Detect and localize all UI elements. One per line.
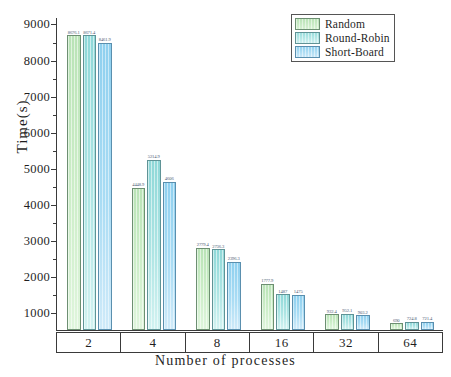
x-axis-title: Number of processes	[0, 353, 451, 369]
bar[interactable]: 8461.9	[98, 43, 112, 330]
legend-color-swatch	[295, 46, 320, 58]
y-axis-minor-tick-mark	[53, 259, 57, 260]
legend: RandomRound-RobinShort-Board	[291, 14, 395, 62]
legend-color-swatch	[295, 32, 320, 44]
bar[interactable]: 721.4	[421, 322, 435, 330]
bar-value-label: 2396.3	[228, 257, 240, 262]
bar-value-label: 4448.9	[132, 183, 144, 188]
bar-group: 2779.42736.32396.3	[186, 18, 251, 330]
bar[interactable]: 4448.9	[132, 188, 146, 330]
y-axis-tick-mark	[51, 133, 57, 134]
y-axis-tick-label: 8000	[6, 53, 50, 68]
legend-label: Round-Robin	[325, 32, 390, 44]
y-axis-minor-tick-mark	[53, 115, 57, 116]
bar[interactable]: 2736.3	[212, 249, 226, 330]
x-axis-category-4: 4	[121, 333, 185, 352]
bar[interactable]: 903.2	[356, 315, 370, 330]
bar[interactable]: 8676.1	[67, 35, 81, 330]
bar[interactable]: 1487	[276, 294, 290, 330]
bar-group: 4448.95214.94606	[122, 18, 187, 330]
bar-value-label: 5214.9	[148, 155, 160, 160]
bar-chart-figure: Time(s) 10002000300040005000600070008000…	[0, 0, 451, 377]
y-axis-tick-label: 3000	[6, 233, 50, 248]
bar[interactable]: 1475	[292, 295, 306, 330]
bar[interactable]: 1777.9	[261, 284, 275, 330]
y-axis-minor-tick-mark	[53, 79, 57, 80]
y-axis-tick-label: 1000	[6, 305, 50, 320]
bar[interactable]: 932.4	[325, 314, 339, 330]
bar-value-label: 721.4	[422, 317, 432, 322]
bar[interactable]: 4606	[163, 182, 177, 330]
y-axis-minor-tick-mark	[53, 223, 57, 224]
y-axis-tick-mark	[51, 97, 57, 98]
y-axis-minor-tick-mark	[53, 151, 57, 152]
bar[interactable]: 8671.4	[83, 35, 97, 330]
y-axis-tick-label: 4000	[6, 197, 50, 212]
bar-group: 932.4952.1903.2	[315, 18, 380, 330]
x-axis-category-2: 2	[57, 333, 121, 352]
legend-item[interactable]: Short-Board	[295, 45, 390, 59]
y-axis-tick-mark	[51, 277, 57, 278]
bar-value-label: 8676.1	[68, 31, 80, 36]
bar-value-label: 724.8	[407, 317, 417, 322]
bar-value-label: 4606	[165, 177, 174, 182]
bar-value-label: 2736.3	[212, 245, 224, 250]
bar[interactable]: 690	[390, 323, 404, 330]
legend-color-swatch	[295, 18, 320, 30]
y-axis-tick-mark	[51, 61, 57, 62]
bar-group: 690724.8721.4	[380, 18, 445, 330]
bar[interactable]: 2396.3	[227, 262, 241, 330]
y-axis-tick-label: 6000	[6, 125, 50, 140]
y-axis-tick-mark	[51, 241, 57, 242]
y-axis-tick-mark	[51, 313, 57, 314]
x-axis-category-64: 64	[379, 333, 442, 352]
bar-value-label: 8461.9	[99, 38, 111, 43]
bar-value-label: 1475	[294, 290, 303, 295]
bar-series-layer: 8676.18671.48461.94448.95214.946062779.4…	[57, 18, 443, 330]
bar-value-label: 952.1	[342, 309, 352, 314]
bar-group: 8676.18671.48461.9	[57, 18, 122, 330]
legend-item[interactable]: Random	[295, 17, 390, 31]
y-axis-tick-label: 5000	[6, 161, 50, 176]
y-axis-tick-mark	[51, 169, 57, 170]
x-axis-category-boxes: 248163264	[56, 332, 443, 353]
bar-value-label: 2779.4	[197, 243, 209, 248]
x-axis-category-32: 32	[314, 333, 378, 352]
bar-value-label: 1487	[278, 290, 287, 295]
y-axis-tick-mark	[51, 205, 57, 206]
y-axis-tick-label: 9000	[6, 17, 50, 32]
y-axis-tick-label: 2000	[6, 269, 50, 284]
bar-value-label: 8671.4	[83, 31, 95, 36]
y-axis-minor-tick-mark	[53, 43, 57, 44]
legend-item[interactable]: Round-Robin	[295, 31, 390, 45]
bar-value-label: 1777.9	[261, 279, 273, 284]
bar[interactable]: 2779.4	[196, 248, 210, 330]
bar-value-label: 932.4	[327, 310, 337, 315]
y-axis-tick-labels: 100020003000400050006000700080009000	[0, 0, 50, 377]
bar-group: 1777.914871475	[251, 18, 316, 330]
bar[interactable]: 5214.9	[147, 160, 161, 330]
bar[interactable]: 952.1	[341, 314, 355, 330]
x-axis-category-16: 16	[250, 333, 314, 352]
legend-label: Random	[325, 18, 365, 30]
y-axis-minor-tick-mark	[53, 295, 57, 296]
plot-area: 8676.18671.48461.94448.95214.946062779.4…	[56, 18, 443, 331]
bar-value-label: 903.2	[358, 311, 368, 316]
y-axis-tick-mark	[51, 24, 57, 25]
x-axis-category-8: 8	[186, 333, 250, 352]
bar[interactable]: 724.8	[405, 322, 419, 330]
bar-value-label: 690	[393, 319, 400, 324]
y-axis-tick-label: 7000	[6, 89, 50, 104]
legend-label: Short-Board	[325, 46, 384, 58]
y-axis-minor-tick-mark	[53, 187, 57, 188]
